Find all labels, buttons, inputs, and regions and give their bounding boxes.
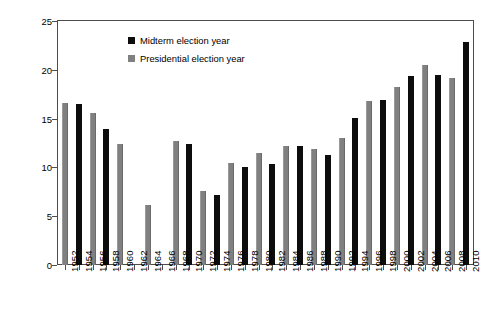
legend-swatch-midterm-icon	[128, 37, 135, 44]
bar-slot	[418, 21, 432, 265]
y-tick-label: 25	[26, 16, 52, 27]
bar-1984	[283, 146, 289, 265]
bar-2008	[449, 78, 455, 265]
y-tick-label: 10	[26, 162, 52, 173]
legend-swatch-presidential-icon	[128, 55, 135, 62]
bar-slot	[390, 21, 404, 265]
x-tick-mark	[259, 265, 260, 270]
x-tick-mark	[342, 265, 343, 270]
x-tick-mark	[286, 265, 287, 270]
x-tick-mark	[466, 265, 467, 270]
x-tick-label: 2010	[470, 250, 481, 272]
x-tick-mark	[176, 265, 177, 270]
bar-slot	[293, 21, 307, 265]
x-tick-mark	[106, 265, 107, 270]
x-tick-mark	[217, 265, 218, 270]
x-tick-mark	[425, 265, 426, 270]
bar-1958	[103, 129, 109, 265]
bar-1954	[76, 104, 82, 265]
x-tick-mark	[79, 265, 80, 270]
bar-1968	[173, 141, 179, 265]
bar-1990	[325, 155, 331, 265]
bar-slot	[335, 21, 349, 265]
legend-label-presidential: Presidential election year	[140, 53, 245, 64]
bar-slot	[445, 21, 459, 265]
bar-slot	[113, 21, 127, 265]
bars-container	[58, 21, 473, 265]
x-tick-mark	[328, 265, 329, 270]
x-tick-mark	[300, 265, 301, 270]
y-tick-label: 15	[26, 113, 52, 124]
bar-slot	[459, 21, 473, 265]
x-tick-mark	[203, 265, 204, 270]
bar-slot	[72, 21, 86, 265]
bar-2004	[422, 65, 428, 265]
y-tick-label: 5	[26, 211, 52, 222]
bar-slot	[58, 21, 72, 265]
chart-legend: Midterm election year Presidential elect…	[128, 33, 245, 69]
x-tick-mark	[93, 265, 94, 270]
bar-slot	[376, 21, 390, 265]
y-tick-label: 0	[26, 260, 52, 271]
bar-1960	[117, 144, 123, 265]
x-tick-mark	[231, 265, 232, 270]
bar-chart-figure: Difference in Presidential Vote Between …	[0, 0, 482, 311]
legend-item-presidential: Presidential election year	[128, 51, 245, 65]
bar-2006	[435, 75, 441, 265]
x-tick-mark	[120, 265, 121, 270]
bar-1998	[380, 100, 386, 265]
bar-slot	[266, 21, 280, 265]
x-tick-mark	[355, 265, 356, 270]
y-tick-label: 20	[26, 64, 52, 75]
x-tick-mark	[411, 265, 412, 270]
bar-slot	[362, 21, 376, 265]
x-tick-mark	[189, 265, 190, 270]
bar-slot	[321, 21, 335, 265]
bar-1988	[311, 149, 317, 265]
x-tick-mark	[383, 265, 384, 270]
bar-2002	[408, 76, 414, 265]
x-tick-mark	[272, 265, 273, 270]
bar-slot	[100, 21, 114, 265]
bar-slot	[252, 21, 266, 265]
x-tick-mark	[148, 265, 149, 270]
bar-slot	[279, 21, 293, 265]
bar-slot	[86, 21, 100, 265]
x-tick-mark	[245, 265, 246, 270]
x-tick-mark	[369, 265, 370, 270]
bar-slot	[432, 21, 446, 265]
x-tick-mark	[452, 265, 453, 270]
bar-1980	[256, 153, 262, 265]
bar-1952	[62, 103, 68, 265]
bar-slot	[349, 21, 363, 265]
x-tick-mark	[397, 265, 398, 270]
x-tick-mark	[65, 265, 66, 270]
bar-1970	[186, 144, 192, 265]
bar-slot	[404, 21, 418, 265]
y-tick-mark	[52, 265, 57, 266]
bar-2000	[394, 87, 400, 265]
bar-1956	[90, 113, 96, 265]
x-tick-mark	[162, 265, 163, 270]
bar-2010	[463, 42, 469, 265]
bar-1986	[297, 146, 303, 265]
bar-1996	[366, 101, 372, 265]
y-axis-title: Difference in Presidential Vote Between …	[0, 0, 34, 275]
legend-label-midterm: Midterm election year	[140, 35, 230, 46]
bar-1994	[352, 118, 358, 265]
x-tick-mark	[314, 265, 315, 270]
bar-slot	[307, 21, 321, 265]
legend-item-midterm: Midterm election year	[128, 33, 245, 47]
bar-1992	[339, 138, 345, 265]
x-tick-mark	[438, 265, 439, 270]
x-tick-mark	[134, 265, 135, 270]
